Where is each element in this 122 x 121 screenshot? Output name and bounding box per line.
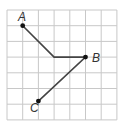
grid-diagram: A B C xyxy=(0,0,122,121)
label-c: C xyxy=(30,101,39,115)
label-a: A xyxy=(17,10,26,24)
point-a-dot xyxy=(20,23,25,28)
point-b-dot xyxy=(83,55,88,60)
label-b: B xyxy=(92,51,100,65)
